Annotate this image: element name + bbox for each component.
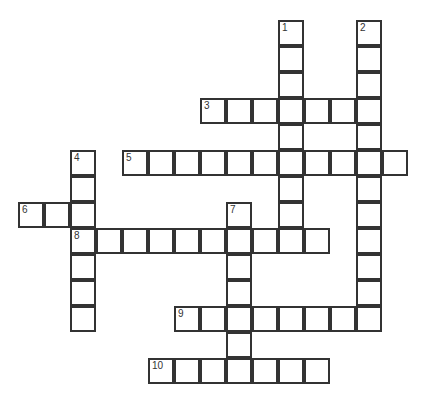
crossword-cell[interactable] <box>252 306 278 332</box>
crossword-cell[interactable] <box>148 228 174 254</box>
crossword-cell[interactable] <box>278 176 304 202</box>
crossword-cell[interactable] <box>200 150 226 176</box>
crossword-cell[interactable] <box>356 254 382 280</box>
crossword-cell[interactable] <box>252 228 278 254</box>
clue-number-1: 1 <box>282 22 288 33</box>
crossword-cell[interactable] <box>382 150 408 176</box>
clue-number-5: 5 <box>126 152 132 163</box>
crossword-cell[interactable] <box>122 228 148 254</box>
crossword-cell[interactable] <box>278 124 304 150</box>
crossword-cell[interactable] <box>200 228 226 254</box>
crossword-cell[interactable] <box>252 98 278 124</box>
crossword-cell[interactable] <box>356 150 382 176</box>
crossword-cell-numbered-6[interactable]: 6 <box>18 202 44 228</box>
crossword-cell[interactable] <box>252 358 278 384</box>
crossword-cell[interactable] <box>70 306 96 332</box>
crossword-cell[interactable] <box>148 150 174 176</box>
crossword-cell[interactable] <box>330 150 356 176</box>
crossword-grid[interactable]: 12348567910 <box>0 0 424 411</box>
crossword-cell[interactable] <box>278 72 304 98</box>
crossword-cell[interactable] <box>356 202 382 228</box>
clue-number-6: 6 <box>22 204 28 215</box>
crossword-cell[interactable] <box>174 150 200 176</box>
crossword-cell[interactable] <box>226 228 252 254</box>
crossword-cell[interactable] <box>226 254 252 280</box>
crossword-cell[interactable] <box>304 150 330 176</box>
crossword-cell-numbered-3[interactable]: 3 <box>200 98 226 124</box>
crossword-cell[interactable] <box>226 150 252 176</box>
crossword-cell[interactable] <box>252 150 278 176</box>
crossword-cell[interactable] <box>330 98 356 124</box>
crossword-cell-numbered-8[interactable]: 8 <box>70 228 96 254</box>
crossword-cell[interactable] <box>70 176 96 202</box>
crossword-cell[interactable] <box>96 228 122 254</box>
crossword-cell[interactable] <box>304 358 330 384</box>
crossword-cell[interactable] <box>304 228 330 254</box>
crossword-cell[interactable] <box>70 280 96 306</box>
clue-number-2: 2 <box>360 22 366 33</box>
crossword-cell[interactable] <box>356 98 382 124</box>
crossword-cell[interactable] <box>356 46 382 72</box>
clue-number-3: 3 <box>204 100 210 111</box>
crossword-cell[interactable] <box>330 306 356 332</box>
crossword-cell[interactable] <box>200 358 226 384</box>
crossword-cell[interactable] <box>356 306 382 332</box>
clue-number-7: 7 <box>230 204 236 215</box>
crossword-cell[interactable] <box>356 72 382 98</box>
crossword-cell[interactable] <box>278 228 304 254</box>
clue-number-4: 4 <box>74 152 80 163</box>
crossword-cell-numbered-4[interactable]: 4 <box>70 150 96 176</box>
crossword-cell[interactable] <box>278 358 304 384</box>
clue-number-9: 9 <box>178 308 184 319</box>
crossword-cell-numbered-2[interactable]: 2 <box>356 20 382 46</box>
crossword-cell[interactable] <box>356 176 382 202</box>
crossword-cell[interactable] <box>174 358 200 384</box>
crossword-cell[interactable] <box>278 150 304 176</box>
crossword-cell-numbered-9[interactable]: 9 <box>174 306 200 332</box>
crossword-cell[interactable] <box>226 280 252 306</box>
crossword-cell[interactable] <box>356 228 382 254</box>
crossword-cell[interactable] <box>356 124 382 150</box>
crossword-cell[interactable] <box>278 306 304 332</box>
crossword-cell[interactable] <box>200 306 226 332</box>
crossword-cell-numbered-7[interactable]: 7 <box>226 202 252 228</box>
crossword-cell[interactable] <box>278 202 304 228</box>
crossword-cell[interactable] <box>356 280 382 306</box>
crossword-cell[interactable] <box>304 98 330 124</box>
crossword-cell[interactable] <box>278 46 304 72</box>
crossword-cell[interactable] <box>174 228 200 254</box>
crossword-cell[interactable] <box>226 358 252 384</box>
crossword-cell[interactable] <box>226 306 252 332</box>
crossword-cell[interactable] <box>226 98 252 124</box>
crossword-cell[interactable] <box>44 202 70 228</box>
crossword-cell-numbered-10[interactable]: 10 <box>148 358 174 384</box>
crossword-cell[interactable] <box>304 306 330 332</box>
crossword-cell-numbered-5[interactable]: 5 <box>122 150 148 176</box>
clue-number-8: 8 <box>74 230 80 241</box>
crossword-cell-numbered-1[interactable]: 1 <box>278 20 304 46</box>
clue-number-10: 10 <box>152 360 163 371</box>
crossword-cell[interactable] <box>278 98 304 124</box>
crossword-cell[interactable] <box>70 202 96 228</box>
crossword-cell[interactable] <box>70 254 96 280</box>
crossword-cell[interactable] <box>226 332 252 358</box>
